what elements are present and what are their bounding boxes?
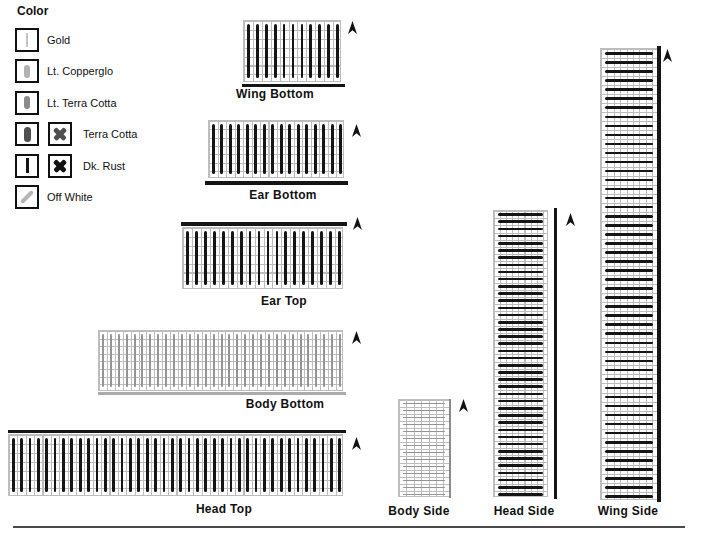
pattern-bar (197, 334, 199, 387)
pattern-bar (498, 213, 543, 216)
pattern-bar (498, 264, 543, 267)
pattern-bar (283, 24, 286, 78)
pattern-bar (605, 477, 653, 480)
pattern-bar (403, 431, 445, 433)
pattern-bar (403, 424, 445, 426)
pattern-bar (403, 473, 445, 475)
pattern-bar (498, 299, 543, 302)
pattern-bar (605, 387, 653, 390)
pattern-bar (498, 335, 543, 338)
pattern-bar (605, 170, 653, 173)
pattern-bar (605, 224, 653, 227)
pattern-bar (181, 334, 183, 387)
pattern-bar (605, 143, 653, 146)
pattern-bar (231, 231, 234, 285)
pattern-bar (605, 116, 653, 119)
pattern-bar (186, 231, 189, 285)
pattern-bar (605, 432, 653, 435)
pattern-bar (137, 438, 140, 492)
pattern-bar (498, 414, 543, 417)
pattern-bar (498, 271, 543, 274)
legend-item-label: Dk. Rust (83, 160, 125, 172)
pattern-bar (498, 407, 543, 410)
pattern-bar (165, 334, 167, 387)
thick-edge-line (657, 46, 661, 502)
legend-item-lt-terra-cotta: Lt. Terra Cotta (0, 91, 220, 115)
panel-label: Body Bottom (246, 397, 325, 411)
pattern-bar (318, 24, 321, 78)
panel-label: Wing Bottom (236, 87, 314, 101)
pattern-bar (498, 314, 543, 317)
pattern-bar (87, 438, 90, 492)
pattern-bar (112, 438, 115, 492)
diagonal-swatch-icon (20, 190, 34, 204)
pattern-bar (605, 332, 653, 335)
pattern-bar (605, 206, 653, 209)
pattern-bar (271, 438, 274, 492)
pattern-bar (320, 231, 323, 285)
panel-label: Ear Top (261, 294, 307, 308)
pattern-bar (605, 215, 653, 218)
pattern-bar (605, 152, 653, 155)
pattern-bar (605, 414, 653, 417)
pattern-bar (498, 364, 543, 367)
pattern-bar (126, 334, 128, 387)
pattern-bar (403, 410, 445, 412)
pattern-bar (221, 334, 223, 387)
pattern-bar (54, 438, 57, 492)
pattern-bar (258, 231, 261, 285)
pattern-grid-wing-side (600, 48, 658, 500)
pattern-bar (605, 314, 653, 317)
pattern-bar (498, 385, 543, 388)
pattern-bar (110, 334, 112, 387)
pattern-bar (403, 417, 445, 419)
pattern-bar (498, 486, 543, 489)
color-swatch-box (15, 59, 39, 83)
pattern-bar (305, 124, 308, 174)
thin-line-swatch-icon (26, 33, 28, 47)
pattern-bar (213, 231, 216, 285)
pattern-bar (309, 24, 312, 78)
pattern-bar (605, 450, 653, 453)
pattern-bar (274, 24, 277, 78)
pattern-bar (129, 438, 132, 492)
pattern-grid-head-side (493, 210, 548, 497)
pattern-bar (292, 24, 295, 78)
pattern-bar (118, 334, 120, 387)
pattern-bar (336, 24, 339, 78)
pattern-bar (498, 357, 543, 360)
pattern-bar (498, 235, 543, 238)
pattern-bar (102, 334, 104, 387)
panel-label: Head Side (494, 504, 555, 518)
pattern-bar (498, 285, 543, 288)
pattern-grid-ear-bottom (208, 120, 344, 178)
pattern-bar (498, 256, 543, 259)
pattern-bar (498, 307, 543, 310)
pattern-bar (276, 231, 279, 285)
thick-edge-line (205, 181, 348, 185)
pattern-bar (498, 249, 543, 252)
pattern-bar (297, 438, 300, 492)
pattern-bar (205, 334, 207, 387)
pattern-bar (20, 438, 23, 492)
pattern-bar (297, 124, 300, 174)
pattern-bar (45, 438, 48, 492)
pattern-bar (188, 438, 191, 492)
pattern-bar (605, 88, 653, 91)
pattern-bar (268, 334, 270, 387)
panel-label: Head Top (196, 502, 252, 516)
pattern-bar (339, 334, 341, 387)
pattern-bar (498, 371, 543, 374)
pattern-bar (237, 124, 240, 174)
pattern-bar (327, 24, 330, 78)
pattern-grid-head-top (8, 434, 343, 496)
pattern-bar (498, 493, 543, 496)
pattern-bar (293, 231, 296, 285)
pattern-bar (280, 124, 283, 174)
pattern-bar (228, 334, 230, 387)
pattern-bar (252, 334, 254, 387)
pattern-bar (154, 438, 157, 492)
bottom-rule (13, 526, 685, 528)
pattern-bar (605, 242, 653, 245)
pattern-bar (605, 197, 653, 200)
